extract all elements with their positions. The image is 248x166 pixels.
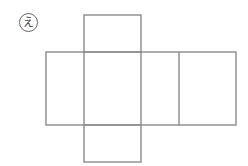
top-square: [84, 15, 141, 52]
cube-net-diagram: [0, 0, 248, 166]
bottom-square: [84, 125, 141, 162]
